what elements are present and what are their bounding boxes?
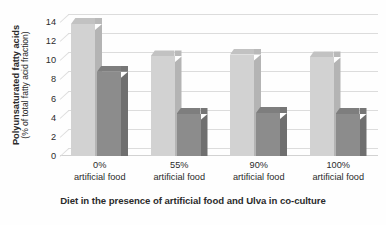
bar: [151, 56, 175, 156]
y-axis-tick-labels: 02468101214: [36, 22, 56, 156]
bar: [71, 24, 95, 156]
bar-face-front: [230, 55, 254, 156]
bar-group: [299, 22, 379, 156]
category-sublabel: artificial food: [219, 172, 299, 184]
bar-face-side: [360, 114, 367, 156]
x-axis-title: Diet in the presence of artificial food …: [0, 195, 386, 206]
bar-face-front: [177, 114, 201, 156]
bar-face-cap-skew: [95, 18, 102, 24]
y-axis-tick-label: 10: [46, 55, 56, 65]
category-percent: 55%: [139, 160, 219, 172]
gridline: [68, 14, 378, 15]
plot-area: [60, 22, 378, 156]
y-axis-title-line2: (% of total fatty acid fraction): [21, 31, 31, 138]
bar-face-cap: [151, 50, 175, 56]
bar-group: [140, 22, 220, 156]
y-axis-tick-label: 4: [51, 113, 56, 123]
y-axis-tick-label: 6: [51, 94, 56, 104]
bar-face-side: [121, 72, 128, 156]
category-percent: 90%: [219, 160, 299, 172]
bar: [336, 114, 360, 156]
bar-face-side: [201, 114, 208, 156]
bar: [256, 113, 280, 156]
x-axis-category-labels: 0%artificial food55%artificial food90%ar…: [60, 160, 378, 188]
category-sublabel: artificial food: [298, 172, 378, 184]
x-axis-category-label: 55%artificial food: [139, 160, 219, 183]
bar-face-cap-skew: [280, 107, 287, 113]
bar-face-front: [336, 114, 360, 156]
category-sublabel: artificial food: [60, 172, 140, 184]
y-axis-tick-label: 14: [46, 17, 56, 27]
x-axis-category-label: 0%artificial food: [60, 160, 140, 183]
chart-figure: Polyunsaturated fatty acids (% of total …: [0, 0, 386, 225]
bar-face-cap-skew: [175, 50, 182, 56]
bar-face-cap-skew: [121, 66, 128, 72]
bar: [177, 114, 201, 156]
bar-face-front: [97, 72, 121, 156]
bar-face-cap-skew: [360, 108, 367, 114]
bar-face-cap-skew: [334, 51, 341, 57]
bar-face-side: [280, 113, 287, 156]
bar-face-cap: [310, 51, 334, 57]
x-axis-category-label: 100%artificial food: [298, 160, 378, 183]
category-percent: 0%: [60, 160, 140, 172]
bar-face-cap-skew: [254, 49, 261, 55]
bar-face-front: [151, 56, 175, 156]
x-axis-category-label: 90%artificial food: [219, 160, 299, 183]
bar: [230, 55, 254, 156]
y-axis-tick-label: 2: [51, 132, 56, 142]
bar-group: [60, 22, 140, 156]
bar-face-front: [71, 24, 95, 156]
y-axis-tick-label: 0: [51, 151, 56, 161]
bars-layer: [60, 22, 378, 156]
category-sublabel: artificial food: [139, 172, 219, 184]
category-percent: 100%: [298, 160, 378, 172]
y-axis-title: Polyunsaturated fatty acids (% of total …: [0, 0, 38, 170]
y-axis-tick-label: 12: [46, 36, 56, 46]
bar: [310, 57, 334, 156]
bar: [97, 72, 121, 156]
bar-face-cap-skew: [201, 108, 208, 114]
bar-face-front: [256, 113, 280, 156]
bar-group: [219, 22, 299, 156]
y-axis-tick-label: 8: [51, 74, 56, 84]
bar-face-front: [310, 57, 334, 156]
bar-face-cap: [230, 49, 254, 55]
